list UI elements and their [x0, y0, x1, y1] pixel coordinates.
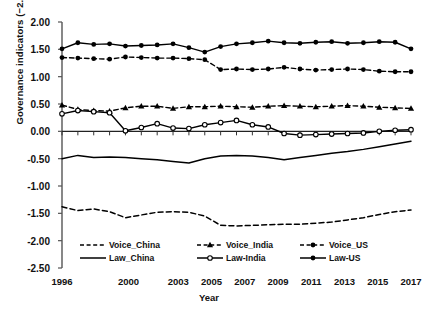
data-point-marker — [250, 122, 255, 127]
data-point-marker — [107, 41, 112, 46]
legend-item-voice-india[interactable]: Voice_India — [197, 240, 273, 250]
data-point-marker — [393, 128, 398, 133]
data-point-marker — [234, 67, 239, 72]
x-axis-tick-label: 2007 — [234, 276, 255, 287]
x-axis-tick-label: 2005 — [201, 276, 222, 287]
series-line-5 — [62, 207, 411, 226]
legend-marker — [208, 256, 213, 261]
data-point-marker — [250, 67, 255, 72]
data-point-marker — [329, 67, 334, 72]
data-point-marker — [377, 129, 382, 134]
legend-item-voice-us[interactable]: Voice_US — [300, 240, 368, 250]
legend-item-law-india[interactable]: Law-India — [197, 253, 266, 263]
data-point-marker — [60, 46, 65, 51]
legend-marker — [311, 243, 316, 248]
x-axis-tick-label: 2013 — [334, 276, 355, 287]
data-point-marker — [202, 57, 207, 62]
data-point-marker — [393, 40, 398, 45]
x-axis-tick-label: 2011 — [301, 276, 322, 287]
data-point-marker — [282, 131, 287, 136]
data-point-marker — [59, 102, 65, 108]
legend-label: Law_China — [109, 253, 154, 263]
data-point-marker — [361, 131, 366, 136]
legend-key-icon — [300, 241, 326, 250]
data-point-marker — [107, 110, 112, 115]
legend-item-law-china[interactable]: Law_China — [80, 253, 154, 263]
series-voice-us — [60, 55, 414, 75]
legend-item-voice-china[interactable]: Voice_China — [80, 240, 160, 250]
data-point-marker — [298, 41, 303, 46]
data-point-marker — [329, 132, 334, 137]
legend-key-icon — [197, 241, 223, 250]
data-point-marker — [218, 44, 223, 49]
legend-label: Law-India — [226, 253, 266, 263]
data-point-marker — [409, 69, 414, 74]
data-point-marker — [266, 67, 271, 72]
legend-key-icon — [80, 254, 106, 263]
data-point-marker — [171, 56, 176, 61]
data-point-marker — [409, 46, 414, 51]
data-point-marker — [91, 109, 96, 114]
legend-marker — [311, 256, 316, 261]
x-axis-tick-label: 2003 — [168, 276, 189, 287]
data-point-marker — [345, 41, 350, 46]
data-point-marker — [75, 56, 80, 61]
data-point-marker — [107, 57, 112, 62]
data-point-marker — [377, 69, 382, 74]
series-line-4 — [62, 141, 411, 163]
x-axis-tick-label: 2015 — [367, 276, 388, 287]
data-point-marker — [202, 50, 207, 55]
data-point-marker — [122, 105, 128, 111]
data-point-marker — [155, 121, 160, 126]
data-point-marker — [123, 128, 128, 133]
data-point-marker — [345, 131, 350, 136]
data-point-marker — [171, 41, 176, 46]
data-point-marker — [155, 43, 160, 48]
data-point-marker — [171, 126, 176, 131]
data-point-marker — [314, 132, 319, 137]
data-point-marker — [345, 67, 350, 72]
data-point-marker — [218, 120, 223, 125]
data-point-marker — [60, 55, 65, 60]
data-point-marker — [187, 45, 192, 50]
data-point-marker — [139, 125, 144, 130]
legend-label: Law-US — [329, 253, 361, 263]
x-axis-tick-label: 2000 — [118, 276, 139, 287]
series-law-us — [60, 39, 414, 55]
data-point-marker — [234, 118, 239, 123]
data-point-marker — [282, 65, 287, 70]
x-axis-label: Year — [0, 292, 418, 303]
data-point-marker — [313, 40, 318, 45]
data-point-marker — [91, 56, 96, 61]
x-axis-tick-label: 2017 — [400, 276, 421, 287]
legend-key-icon — [197, 254, 223, 263]
data-point-marker — [202, 122, 207, 127]
legend-label: Voice_US — [329, 240, 368, 250]
series-voice-china — [62, 207, 411, 226]
legend-label: Voice_India — [226, 240, 273, 250]
legend-item-law-us[interactable]: Law-US — [300, 253, 361, 263]
data-point-marker — [155, 56, 160, 61]
data-point-marker — [266, 39, 271, 44]
data-point-marker — [361, 67, 366, 72]
series-law-china — [62, 141, 411, 163]
data-point-marker — [91, 42, 96, 47]
x-axis-tick-label: 2009 — [267, 276, 288, 287]
data-point-marker — [377, 39, 382, 44]
data-point-marker — [298, 133, 303, 138]
data-point-marker — [298, 67, 303, 72]
data-point-marker — [282, 40, 287, 45]
data-point-marker — [361, 40, 366, 45]
data-point-marker — [123, 55, 128, 60]
data-point-marker — [266, 125, 271, 130]
data-point-marker — [250, 40, 255, 45]
data-point-marker — [123, 44, 128, 49]
legend-label: Voice_China — [109, 240, 160, 250]
x-axis-tick-label: 1996 — [51, 276, 72, 287]
legend-key-icon — [80, 241, 106, 250]
legend-key-icon — [300, 254, 326, 263]
data-point-marker — [75, 40, 80, 45]
data-point-marker — [139, 43, 144, 48]
